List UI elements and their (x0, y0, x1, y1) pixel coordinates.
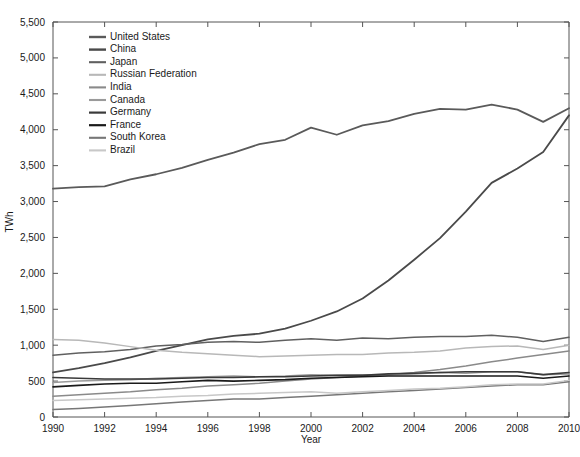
y-axis-title: TWh (4, 211, 15, 232)
y-tick-label: 1,000 (20, 340, 45, 351)
x-tick-label: 2008 (506, 423, 529, 434)
line-chart: 05001,0001,5002,0002,5003,0003,5004,0004… (0, 0, 580, 457)
y-tick-label: 4,500 (20, 88, 45, 99)
legend-label-brazil: Brazil (110, 144, 135, 155)
x-tick-label: 1992 (93, 423, 116, 434)
legend-label-canada: Canada (110, 94, 145, 105)
x-tick-label: 1990 (42, 423, 65, 434)
y-tick-label: 3,500 (20, 160, 45, 171)
legend-label-japan: Japan (110, 56, 137, 67)
legend-label-united-states: United States (110, 31, 170, 42)
legend-label-russian-federation: Russian Federation (110, 68, 197, 79)
y-tick-label: 2,000 (20, 268, 45, 279)
y-tick-label: 5,000 (20, 52, 45, 63)
x-tick-label: 1996 (197, 423, 220, 434)
legend-label-germany: Germany (110, 106, 151, 117)
legend-label-france: France (110, 119, 142, 130)
chart-legend: United StatesChinaJapanRussian Federatio… (89, 31, 197, 155)
y-tick-label: 500 (28, 376, 45, 387)
series-line-south-korea (53, 382, 569, 410)
x-tick-label: 1994 (145, 423, 168, 434)
series-line-japan (53, 335, 569, 355)
series-line-canada (53, 372, 569, 383)
y-tick-label: 5,500 (20, 17, 45, 28)
x-tick-label: 2002 (351, 423, 374, 434)
legend-label-china: China (110, 43, 137, 54)
y-tick-label: 0 (39, 412, 45, 423)
y-tick-label: 4,000 (20, 124, 45, 135)
series-line-russian-federation (53, 339, 569, 356)
y-tick-label: 3,000 (20, 196, 45, 207)
legend-label-south-korea: South Korea (110, 131, 166, 142)
y-tick-label: 2,500 (20, 232, 45, 243)
x-tick-label: 2000 (300, 423, 323, 434)
x-tick-label: 2006 (455, 423, 478, 434)
chart-canvas: 05001,0001,5002,0002,5003,0003,5004,0004… (0, 0, 580, 457)
y-tick-label: 1,500 (20, 304, 45, 315)
legend-label-india: India (110, 81, 132, 92)
y-axis-ticks: 05001,0001,5002,0002,5003,0003,5004,0004… (20, 17, 569, 423)
x-tick-label: 1998 (248, 423, 271, 434)
x-tick-label: 2004 (403, 423, 426, 434)
x-tick-label: 2010 (558, 423, 580, 434)
x-axis-title: Year (301, 434, 322, 445)
